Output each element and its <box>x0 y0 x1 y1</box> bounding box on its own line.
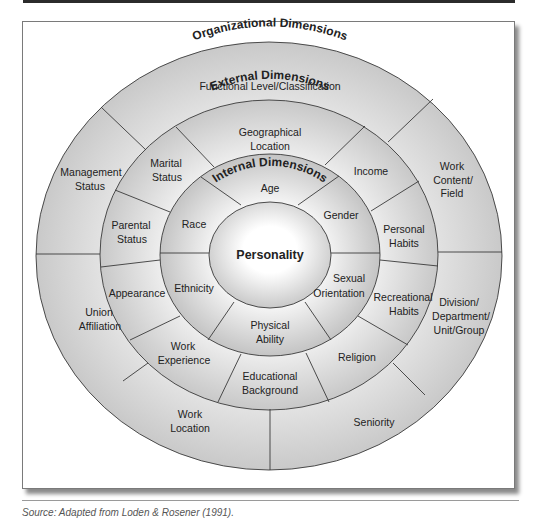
segment-seniority: Seniority <box>354 416 396 428</box>
segment-personal-habits-1: Personal <box>383 223 424 235</box>
segment-age: Age <box>261 182 280 194</box>
segment-recreational-habits-2: Habits <box>389 305 419 317</box>
segment-management-status-2: Status <box>75 180 105 192</box>
segment-management-status-1: Management <box>60 166 121 178</box>
segment-division-3: Unit/Group <box>434 324 485 336</box>
segment-functional-level: Functional Level/Classification <box>199 80 340 92</box>
segment-parental-status-1: Parental <box>111 219 150 231</box>
caption-divider <box>22 500 519 501</box>
segment-marital-status-2: Status <box>152 171 182 183</box>
segment-appearance: Appearance <box>109 287 166 299</box>
segment-physical-ability-2: Ability <box>256 333 285 345</box>
segment-sexual-orientation-2: Orientation <box>313 287 365 299</box>
segment-work-content-2: Content/ <box>433 174 473 186</box>
segment-geographical-location-2: Location <box>250 140 290 152</box>
segment-race: Race <box>182 218 207 230</box>
segment-work-location-1: Work <box>178 408 203 420</box>
organizational-dimensions-title: Organizational Dimensions <box>190 16 350 44</box>
segment-marital-status-1: Marital <box>150 157 182 169</box>
segment-educational-background-2: Background <box>242 384 298 396</box>
segment-income: Income <box>354 165 389 177</box>
segment-work-experience-1: Work <box>171 340 196 352</box>
personality-label: Personality <box>236 248 303 262</box>
segment-recreational-habits-1: Recreational <box>374 291 433 303</box>
segment-work-location-2: Location <box>170 422 210 434</box>
segment-division-1: Division/ <box>439 296 479 308</box>
segment-geographical-location-1: Geographical <box>239 126 301 138</box>
segment-work-content-1: Work <box>440 160 465 172</box>
segment-ethnicity: Ethnicity <box>174 282 214 294</box>
segment-physical-ability-1: Physical <box>250 319 289 331</box>
segment-gender: Gender <box>323 209 359 221</box>
segment-work-experience-2: Experience <box>158 354 211 366</box>
segment-religion: Religion <box>338 351 376 363</box>
segment-union-affiliation-1: Union <box>85 306 113 318</box>
segment-personal-habits-2: Habits <box>389 237 419 249</box>
segment-union-affiliation-2: Affiliation <box>79 320 122 332</box>
figure-caption: Source: Adapted from Loden & Rosener (19… <box>22 507 234 518</box>
segment-sexual-orientation-1: Sexual <box>333 272 365 284</box>
segment-division-2: Department/ <box>432 310 490 322</box>
segment-educational-background-1: Educational <box>243 370 298 382</box>
segment-parental-status-2: Status <box>117 233 147 245</box>
segment-work-content-3: Field <box>441 187 464 199</box>
